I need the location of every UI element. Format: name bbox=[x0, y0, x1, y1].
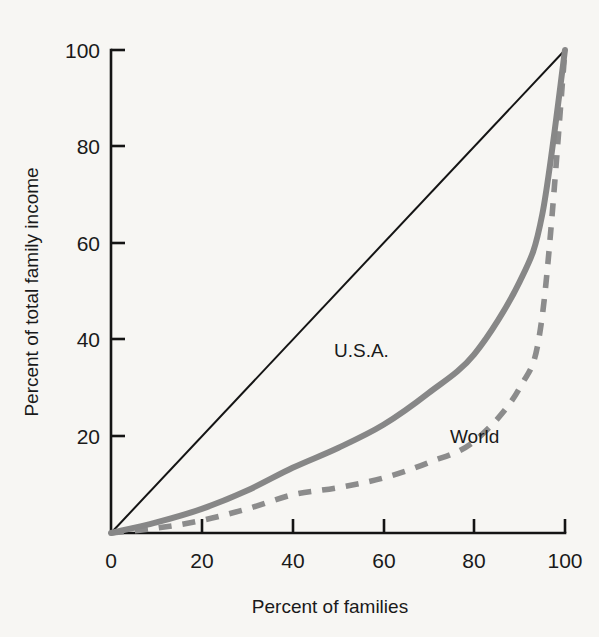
x-tick-label-40: 40 bbox=[281, 549, 304, 572]
chart-background bbox=[0, 0, 599, 637]
x-tick-label-100: 100 bbox=[547, 549, 582, 572]
y-tick-label-80: 80 bbox=[77, 135, 100, 158]
y-axis-title: Percent of total family income bbox=[21, 167, 42, 416]
x-tick-label-60: 60 bbox=[372, 549, 395, 572]
y-tick-label-20: 20 bbox=[77, 425, 100, 448]
chart-page: 100 80 60 40 20 0 20 40 60 80 100 Percen… bbox=[0, 0, 599, 637]
y-tick-label-60: 60 bbox=[77, 232, 100, 255]
x-tick-label-80: 80 bbox=[462, 549, 485, 572]
x-axis-title: Percent of families bbox=[252, 596, 408, 617]
usa-series-label: U.S.A. bbox=[334, 340, 389, 361]
lorenz-curve-chart: 100 80 60 40 20 0 20 40 60 80 100 Percen… bbox=[0, 0, 599, 637]
x-tick-label-20: 20 bbox=[190, 549, 213, 572]
x-tick-label-0: 0 bbox=[105, 549, 117, 572]
y-tick-label-40: 40 bbox=[77, 328, 100, 351]
world-series-label: World bbox=[450, 426, 499, 447]
y-tick-label-100: 100 bbox=[65, 39, 100, 62]
